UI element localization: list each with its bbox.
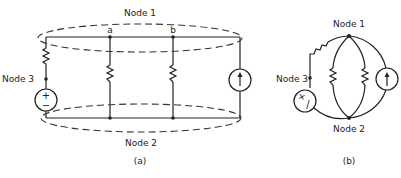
junction-dot — [108, 116, 112, 120]
resistor-icon — [310, 42, 328, 60]
node2-dot — [347, 116, 351, 120]
caption-b: (b) — [343, 156, 356, 166]
resistor-icon — [362, 68, 368, 85]
branch-b: b — [170, 25, 176, 120]
figure-a: + − Node 3 a b — [2, 8, 251, 166]
right-branch — [229, 37, 251, 118]
left-branch: + − Node 3 — [2, 37, 57, 118]
minus-sign: / — [306, 99, 310, 110]
node3-label: Node 3 — [2, 74, 34, 84]
arrow-up-icon — [385, 72, 390, 77]
node1-label: Node 1 — [124, 8, 156, 18]
resistor-icon — [170, 65, 176, 82]
node3-dot — [44, 77, 48, 81]
node-a-label: a — [107, 25, 113, 35]
node2-label: Node 2 — [333, 124, 365, 134]
resistor-icon — [43, 48, 49, 64]
figure-b: + / Node 1 Node 2 Node 3 (b) — [276, 19, 398, 166]
junction-dot — [171, 116, 175, 120]
node1-boundary — [38, 24, 242, 52]
resistor-icon — [330, 68, 336, 85]
minus-sign: − — [42, 100, 50, 111]
arrow-up-icon — [238, 72, 243, 77]
circuit-diagram: + − Node 3 a b — [0, 0, 401, 178]
node1-label: Node 1 — [333, 19, 365, 29]
node1-dot — [347, 34, 351, 38]
resistor-icon — [107, 65, 113, 82]
node3-label: Node 3 — [276, 74, 308, 84]
node3-dot — [308, 76, 312, 80]
branch-a: a — [107, 25, 113, 120]
caption-a: (a) — [134, 156, 147, 166]
node2-label: Node 2 — [125, 138, 157, 148]
node-b-label: b — [170, 25, 176, 35]
